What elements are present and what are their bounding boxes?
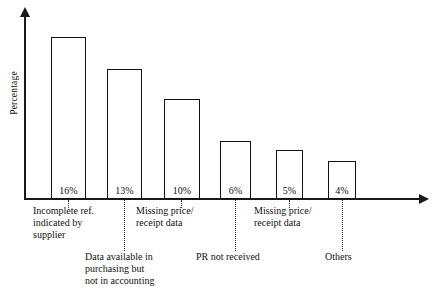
y-axis-title: Percentage [9, 57, 19, 129]
bar-value-label: 16% [51, 185, 86, 196]
bar-value-label: 6% [220, 185, 251, 196]
bar-value-label: 13% [107, 185, 142, 196]
bar-value-label: 10% [164, 185, 200, 196]
category-label: PR not received [196, 251, 260, 263]
leader-line [124, 200, 125, 251]
leader-line [235, 200, 236, 251]
bar-chart: Percentage 16%13%10%6%5%4% Incomplete re… [0, 0, 436, 303]
category-label: Missing price/ receipt data [136, 205, 194, 229]
category-label: Missing price/ receipt data [254, 205, 312, 229]
category-label: Incomplete ref. indicated by supplier [33, 205, 94, 242]
bar [51, 37, 86, 199]
y-axis-line [24, 16, 26, 200]
bar-value-label: 5% [276, 185, 303, 196]
leader-line [342, 200, 343, 251]
bar [164, 99, 200, 199]
x-axis-arrow-icon [419, 194, 429, 204]
category-label: Data available in purchasing but not in … [85, 251, 154, 288]
category-label: Others [325, 251, 352, 263]
bar-value-label: 4% [328, 185, 356, 196]
bar [107, 69, 142, 199]
y-axis-arrow-icon [20, 7, 30, 17]
